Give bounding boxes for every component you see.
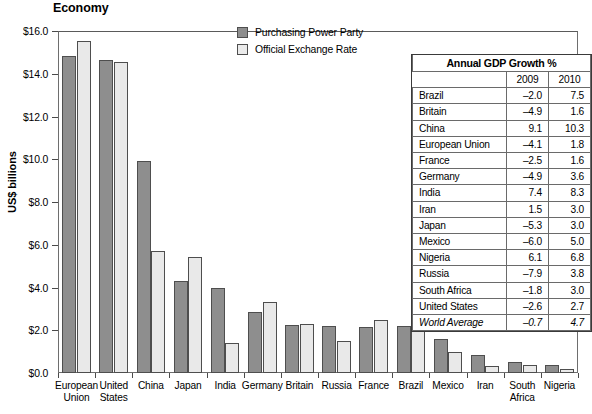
x-axis-category-label: UnitedStates bbox=[99, 380, 128, 403]
y-axis-tick-mark bbox=[52, 159, 58, 160]
table-row: Russia–7.93.8 bbox=[413, 266, 591, 282]
bar-oer bbox=[114, 62, 128, 373]
x-axis-category-label: Nigeria bbox=[544, 380, 575, 392]
gdp-growth-table: Annual GDP Growth % 2009 2010 Brazil–2.0… bbox=[411, 54, 592, 332]
bar-oer bbox=[225, 343, 239, 373]
y-axis-tick-label: $10.0 bbox=[23, 154, 48, 165]
table-cell-country: Japan bbox=[413, 217, 507, 233]
table-cell-country: World Average bbox=[413, 315, 507, 331]
table-cell-2009: –7.9 bbox=[506, 266, 548, 282]
bar-group bbox=[95, 31, 132, 373]
table-cell-country: Britain bbox=[413, 104, 507, 120]
bar-oer bbox=[411, 330, 425, 373]
table-cell-2010: 1.6 bbox=[548, 104, 590, 120]
y-axis-tick-label: $4.0 bbox=[29, 282, 48, 293]
x-axis-category-label: Japan bbox=[174, 380, 201, 392]
table-cell-country: Germany bbox=[413, 169, 507, 185]
table-cell-country: Nigeria bbox=[413, 250, 507, 266]
table-cell-2009: –0.7 bbox=[506, 315, 548, 331]
x-axis-tick-mark bbox=[281, 373, 282, 378]
table-cell-2009: –4.1 bbox=[506, 136, 548, 152]
x-axis-tick-mark bbox=[169, 373, 170, 378]
table-cell-2010: 1.6 bbox=[548, 153, 590, 169]
x-axis-category-line: United bbox=[99, 380, 128, 392]
table-row: Brazil–2.07.5 bbox=[413, 88, 591, 104]
table-row: France–2.51.6 bbox=[413, 153, 591, 169]
legend-item: Official Exchange Rate bbox=[237, 42, 363, 57]
y-axis-tick-label: $14.0 bbox=[23, 68, 48, 79]
legend-swatch-ppp bbox=[237, 27, 248, 38]
y-axis-tick-label: $2.0 bbox=[29, 325, 48, 336]
y-axis-tick-label: $8.0 bbox=[29, 197, 48, 208]
legend-label: Purchasing Power Party bbox=[255, 27, 363, 38]
table-cell-2010: 6.8 bbox=[548, 250, 590, 266]
table-cell-2009: –5.3 bbox=[506, 217, 548, 233]
table-cell-2009: –2.0 bbox=[506, 88, 548, 104]
bar-ppp bbox=[508, 362, 522, 373]
table-row: World Average–0.74.7 bbox=[413, 315, 591, 331]
x-axis-tick-mark bbox=[207, 373, 208, 378]
x-axis-category-label: Germany bbox=[242, 380, 283, 392]
x-axis-tick-mark bbox=[132, 373, 133, 378]
x-axis-tick-mark bbox=[355, 373, 356, 378]
legend-item: Purchasing Power Party bbox=[237, 25, 363, 40]
bar-ppp bbox=[211, 288, 225, 374]
table-row: Nigeria6.16.8 bbox=[413, 250, 591, 266]
bar-ppp bbox=[137, 161, 151, 373]
table-cell-country: India bbox=[413, 185, 507, 201]
x-axis-category-line: Germany bbox=[242, 380, 283, 392]
table-header-row: Annual GDP Growth % bbox=[413, 55, 591, 72]
bar-group bbox=[244, 31, 281, 373]
table-cell-country: Russia bbox=[413, 266, 507, 282]
table-cell-2009: –4.9 bbox=[506, 104, 548, 120]
table-cell-2010: 3.6 bbox=[548, 169, 590, 185]
x-axis-tick-mark bbox=[244, 373, 245, 378]
y-axis-tick-mark bbox=[52, 202, 58, 203]
x-axis-category-line: China bbox=[138, 380, 164, 392]
page-title: Economy bbox=[53, 1, 109, 15]
table-cell-country: France bbox=[413, 153, 507, 169]
bar-oer bbox=[151, 251, 165, 373]
table-cell-2010: 1.8 bbox=[548, 136, 590, 152]
x-axis-category-line: Nigeria bbox=[544, 380, 575, 392]
bar-oer bbox=[77, 41, 91, 373]
table-cell-2010: 3.0 bbox=[548, 282, 590, 298]
table-cell-country: Mexico bbox=[413, 234, 507, 250]
y-axis-tick-mark bbox=[52, 288, 58, 289]
table-row: Britain–4.91.6 bbox=[413, 104, 591, 120]
x-axis-tick-mark bbox=[429, 373, 430, 378]
chart-legend: Purchasing Power PartyOfficial Exchange … bbox=[237, 25, 363, 59]
bar-group bbox=[207, 31, 244, 373]
x-axis-category-label: France bbox=[358, 380, 389, 392]
table-col-2010: 2010 bbox=[548, 72, 590, 88]
table-cell-2009: 1.5 bbox=[506, 201, 548, 217]
bar-ppp bbox=[248, 312, 262, 373]
x-axis-category-line: Union bbox=[55, 392, 98, 404]
x-axis-tick-mark bbox=[95, 373, 96, 378]
bar-ppp bbox=[397, 326, 411, 373]
bar-oer bbox=[337, 341, 351, 373]
table-cell-2009: 7.4 bbox=[506, 185, 548, 201]
x-axis-category-line: Britain bbox=[286, 380, 314, 392]
y-axis-tick-label: $16.0 bbox=[23, 26, 48, 37]
table-title: Annual GDP Growth % bbox=[413, 55, 591, 72]
bar-oer bbox=[485, 366, 499, 373]
bar-oer bbox=[448, 352, 462, 373]
table-row: South Africa–1.83.0 bbox=[413, 282, 591, 298]
y-axis-tick-mark bbox=[52, 117, 58, 118]
x-axis-category-line: Japan bbox=[174, 380, 201, 392]
table-head: Annual GDP Growth % 2009 2010 bbox=[413, 55, 591, 88]
x-axis-category-line: Mexico bbox=[432, 380, 463, 392]
table-cell-country: United States bbox=[413, 298, 507, 314]
legend-swatch-oer bbox=[237, 44, 248, 55]
bar-ppp bbox=[434, 339, 448, 373]
x-axis-category-line: France bbox=[358, 380, 389, 392]
x-axis-tick-mark bbox=[504, 373, 505, 378]
y-axis-tick-mark bbox=[52, 245, 58, 246]
table-cell-2009: 9.1 bbox=[506, 120, 548, 136]
bar-group bbox=[132, 31, 169, 373]
bar-group bbox=[169, 31, 206, 373]
x-axis-category-label: Russia bbox=[321, 380, 351, 392]
bar-ppp bbox=[62, 56, 76, 373]
x-axis-category-line: States bbox=[99, 392, 128, 404]
